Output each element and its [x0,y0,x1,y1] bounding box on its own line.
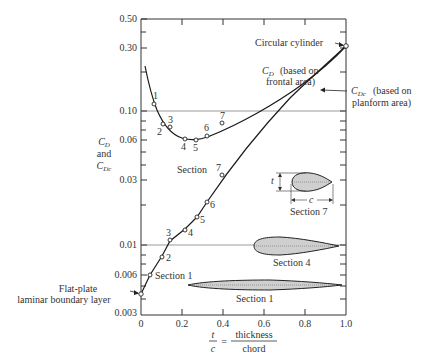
section-4-airfoil [254,237,339,255]
svg-text:3: 3 [168,114,173,125]
flat-plate-point [139,292,143,296]
svg-text:6: 6 [210,199,215,210]
ytick-label: 0.06 [120,134,138,145]
svg-text:planform area): planform area) [352,97,411,109]
x-tick-labels: 0 0.2 0.4 0.6 0.8 1.0 [139,318,353,329]
y-axis-label: CD and CDc [97,136,113,173]
cylinder-point [344,44,349,49]
xtick-label: 0.8 [299,318,312,329]
svg-text:2: 2 [166,252,171,263]
svg-text:1: 1 [153,90,158,101]
svg-text:thickness: thickness [235,329,272,340]
section-1-airfoil [188,280,342,290]
svg-text:Flat-plate: Flat-plate [59,283,98,294]
cd-points [152,102,224,142]
y-tick-labels: 0.50 0.30 0.10 0.06 0.03 0.01 0.006 0.00… [115,13,138,318]
ytick-label: 0.003 [115,307,138,318]
cd-annotation: CD (based on frontal area) [262,65,319,88]
ytick-label: 0.10 [120,105,138,116]
svg-text:4: 4 [181,141,186,152]
xtick-label: 1.0 [340,318,353,329]
svg-text:3: 3 [166,227,171,238]
xtick-label: 0.6 [258,318,271,329]
svg-text:=: = [221,336,227,347]
section-4-label: Section 4 [273,257,311,268]
cdc-points [148,173,224,277]
svg-text:2: 2 [157,126,162,137]
cdc-annotation: CDc (based on planform area) [351,85,412,109]
section-1-label: Section 1 [236,293,274,304]
dimension-t-label: t [271,175,274,186]
svg-text:6: 6 [204,122,209,133]
section-7-airfoil [276,173,333,204]
svg-text:7: 7 [216,162,221,173]
svg-text:and: and [97,148,111,159]
svg-text:c: c [211,343,216,354]
cylinder-label: Circular cylinder [255,37,324,48]
drag-coefficient-chart: 0.50 0.30 0.10 0.06 0.03 0.01 0.006 0.00… [0,0,436,361]
ytick-label: 0.30 [120,42,138,53]
svg-text:CDc: CDc [97,160,113,173]
svg-text:(based on: (based on [373,85,412,97]
xtick-label: 0 [139,318,144,329]
svg-text:5: 5 [200,214,205,225]
ytick-label: 0.006 [115,269,138,280]
xtick-label: 0.4 [217,318,230,329]
cd-frontal-curve [145,46,346,140]
cd-point-labels: 1 2 3 4 5 6 7 [153,90,225,153]
y-ticks-right [340,32,346,299]
svg-text:4: 4 [188,227,193,238]
section-7-point-label: Section [177,164,207,175]
xtick-label: 0.2 [176,318,189,329]
svg-text:t: t [212,329,215,340]
ytick-label: 0.50 [120,13,138,24]
svg-text:5: 5 [193,142,198,153]
svg-text:chord: chord [243,343,266,354]
cdc-planform-curve [141,46,346,294]
svg-text:frontal area): frontal area) [266,76,315,88]
svg-text:laminar boundary layer: laminar boundary layer [17,294,111,305]
svg-text:7: 7 [220,110,225,121]
flat-plate-label: Flat-plate laminar boundary layer [17,283,111,305]
ytick-label: 0.01 [120,239,138,250]
ytick-label: 0.03 [120,174,138,185]
x-axis-label: t c = thickness chord [209,329,277,354]
cdc-point-labels: Section 1 2 3 4 5 6 Section 7 [155,162,221,281]
dimension-c-label: c [309,194,314,205]
y-ticks-left [141,19,147,299]
section-7-label: Section 7 [290,206,328,217]
section-1-point-label: Section 1 [155,270,193,281]
